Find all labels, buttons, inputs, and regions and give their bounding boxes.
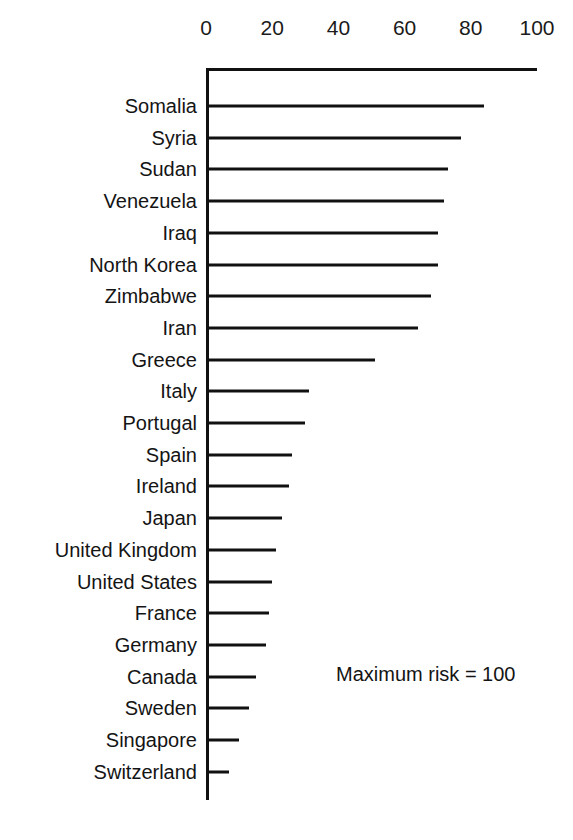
bar-france <box>206 612 269 615</box>
bar-united-states <box>206 580 272 583</box>
category-label-united-kingdom: United Kingdom <box>55 538 197 561</box>
bar-italy <box>206 390 309 393</box>
bar-switzerland <box>206 770 229 773</box>
category-label-iran: Iran <box>163 316 197 339</box>
bar-iraq <box>206 231 438 234</box>
category-label-portugal: Portugal <box>123 412 198 435</box>
bar-sweden <box>206 707 249 710</box>
category-label-zimbabwe: Zimbabwe <box>105 285 197 308</box>
category-label-italy: Italy <box>160 380 197 403</box>
category-label-ireland: Ireland <box>136 475 197 498</box>
category-label-sudan: Sudan <box>139 158 197 181</box>
bar-iran <box>206 326 418 329</box>
category-label-canada: Canada <box>127 665 197 688</box>
category-label-iraq: Iraq <box>163 221 197 244</box>
bar-sudan <box>206 168 448 171</box>
bar-syria <box>206 136 461 139</box>
category-label-somalia: Somalia <box>125 95 197 118</box>
bar-germany <box>206 643 266 646</box>
category-label-switzerland: Switzerland <box>94 760 197 783</box>
category-label-greece: Greece <box>131 348 197 371</box>
category-label-syria: Syria <box>151 126 197 149</box>
bar-greece <box>206 358 375 361</box>
category-label-venezuela: Venezuela <box>104 190 197 213</box>
category-label-united-states: United States <box>77 570 197 593</box>
bar-canada <box>206 675 256 678</box>
bar-ireland <box>206 485 289 488</box>
bar-united-kingdom <box>206 548 276 551</box>
bar-somalia <box>206 105 484 108</box>
bar-japan <box>206 517 282 520</box>
category-label-north-korea: North Korea <box>89 253 197 276</box>
category-label-france: France <box>135 602 197 625</box>
category-label-sweden: Sweden <box>125 697 197 720</box>
bar-zimbabwe <box>206 295 431 298</box>
chart-canvas: 020406080100 SomaliaSyriaSudanVenezuelaI… <box>0 0 573 840</box>
category-label-spain: Spain <box>146 443 197 466</box>
max-risk-annotation: Maximum risk = 100 <box>336 663 516 686</box>
bar-spain <box>206 453 292 456</box>
bar-singapore <box>206 739 239 742</box>
category-label-germany: Germany <box>115 633 197 656</box>
category-label-japan: Japan <box>143 507 198 530</box>
category-label-singapore: Singapore <box>106 729 197 752</box>
bar-portugal <box>206 422 305 425</box>
bar-rows-container: SomaliaSyriaSudanVenezuelaIraqNorth Kore… <box>0 0 573 840</box>
bar-venezuela <box>206 200 444 203</box>
bar-north-korea <box>206 263 438 266</box>
